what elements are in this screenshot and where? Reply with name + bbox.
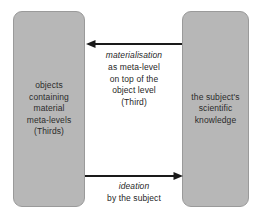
materialisation-arrow (86, 40, 182, 48)
ideation-label: ideation by the subject (85, 181, 183, 205)
node-objects-containing-material-meta-levels: objects containing material meta-levels … (13, 11, 85, 207)
materialisation-label: materialisation as meta-level on top of … (86, 50, 182, 109)
ideation-emphasis-text: ideation (85, 181, 183, 193)
ideation-detail-text: by the subject (85, 193, 183, 205)
node-left-label: objects containing material meta-levels … (24, 80, 75, 138)
node-subjects-scientific-knowledge: the subject's scientific knowledge (182, 11, 249, 207)
node-right-label: the subject's scientific knowledge (188, 92, 242, 127)
ideation-arrow (85, 172, 183, 180)
diagram-canvas: objects containing material meta-levels … (0, 0, 261, 222)
materialisation-emphasis-text: materialisation (86, 50, 182, 62)
materialisation-detail-text: as meta-level on top of the object level… (86, 62, 182, 109)
